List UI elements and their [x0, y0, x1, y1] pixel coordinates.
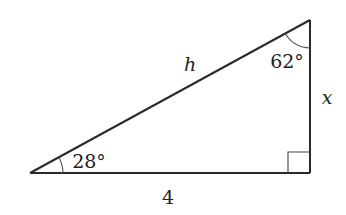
base-label: 4 — [162, 188, 174, 207]
right-angle-marker — [288, 152, 310, 173]
angle-arc-62 — [285, 33, 310, 48]
triangle-diagram: h 62° x 28° 4 — [0, 0, 346, 215]
angle-bottom-left-label: 28° — [72, 152, 106, 171]
vertical-side-label: x — [322, 88, 333, 107]
angle-arc-28 — [59, 158, 63, 174]
hypotenuse-label: h — [184, 55, 196, 74]
triangle-figure — [0, 0, 346, 215]
angle-top-label: 62° — [270, 52, 304, 71]
